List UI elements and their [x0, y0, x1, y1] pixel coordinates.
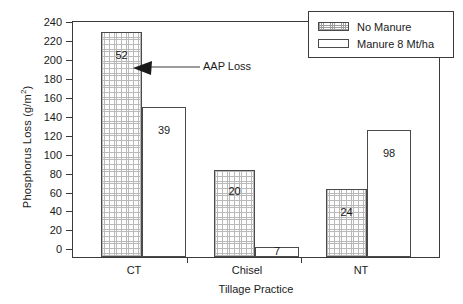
- y-tick-label-100: 100: [44, 149, 62, 161]
- x-tick-1: [187, 257, 188, 263]
- x-tick-2: [301, 257, 302, 263]
- y-tick-label-220: 220: [44, 35, 62, 47]
- bar-chisel-no-manure[interactable]: 20: [214, 170, 255, 257]
- y-tick-label-40: 40: [50, 205, 62, 217]
- y-axis-title-close: ): [21, 86, 33, 90]
- y-tick-180: 180: [66, 79, 73, 80]
- bar-value-nt-manure: 98: [368, 147, 410, 159]
- y-tick-label-240: 240: [44, 16, 62, 28]
- y-tick-120: 120: [66, 136, 73, 137]
- y-tick-label-180: 180: [44, 73, 62, 85]
- y-tick-0: 0: [66, 249, 73, 250]
- bar-value-ct-manure: 39: [143, 124, 185, 136]
- legend-item-no-manure[interactable]: No Manure: [318, 20, 411, 33]
- y-tick-80: 80: [66, 174, 73, 175]
- y-tick-240: 240: [66, 22, 73, 23]
- x-category-chisel: Chisel: [203, 264, 291, 276]
- y-axis-title-exponent: 2: [19, 89, 28, 94]
- chart-legend: No Manure Manure 8 Mt/ha: [308, 11, 454, 58]
- y-tick-label-200: 200: [44, 54, 62, 66]
- y-tick-label-160: 160: [44, 92, 62, 104]
- y-tick-160: 160: [66, 98, 73, 99]
- bar-value-ct-no-manure: 52: [102, 49, 141, 61]
- y-tick-label-80: 80: [50, 168, 62, 180]
- bar-ct-no-manure[interactable]: 52: [101, 32, 142, 257]
- bar-value-nt-no-manure: 24: [327, 206, 366, 218]
- y-tick-label-0: 0: [56, 243, 62, 255]
- bar-value-chisel-manure: 7: [256, 245, 298, 257]
- bar-nt-no-manure[interactable]: 24: [326, 189, 367, 257]
- y-tick-140: 140: [66, 117, 73, 118]
- y-tick-220: 220: [66, 41, 73, 42]
- annotation-label: AAP Loss: [203, 60, 251, 72]
- bar-ct-manure[interactable]: 39: [142, 107, 186, 257]
- y-tick-label-140: 140: [44, 111, 62, 123]
- bar-chisel-manure[interactable]: 7: [255, 247, 299, 257]
- x-axis-title: Tillage Practice: [72, 283, 440, 295]
- legend-swatch-no-manure-icon: [318, 22, 349, 31]
- legend-label-manure: Manure 8 Mt/ha: [357, 38, 434, 50]
- legend-swatch-manure-icon: [318, 39, 349, 48]
- bar-nt-manure[interactable]: 98: [367, 130, 411, 257]
- legend-item-manure[interactable]: Manure 8 Mt/ha: [318, 37, 434, 50]
- y-tick-label-60: 60: [50, 187, 62, 199]
- y-tick-60: 60: [66, 193, 73, 194]
- y-tick-40: 40: [66, 211, 73, 212]
- y-axis-title: Phosphorus Loss (g/m2): [19, 47, 33, 247]
- x-category-ct: CT: [90, 264, 178, 276]
- y-tick-label-120: 120: [44, 130, 62, 142]
- bar-value-chisel-no-manure: 20: [215, 185, 254, 197]
- y-tick-100: 100: [66, 155, 73, 156]
- y-tick-20: 20: [66, 230, 73, 231]
- y-tick-label-20: 20: [50, 224, 62, 236]
- chart-figure: Phosphorus Loss (g/m2) 240 220 200 180 1…: [0, 0, 463, 304]
- x-category-nt: NT: [317, 264, 405, 276]
- y-axis-title-text: Phosphorus Loss (g/m: [21, 94, 33, 208]
- y-tick-200: 200: [66, 60, 73, 61]
- legend-label-no-manure: No Manure: [357, 21, 411, 33]
